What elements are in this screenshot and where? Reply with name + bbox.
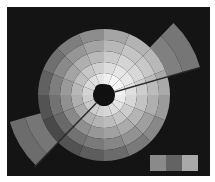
- legend-swatch: [182, 155, 198, 171]
- center-blob: [94, 84, 114, 106]
- legend-swatch: [166, 155, 182, 171]
- legend-swatch: [150, 155, 166, 171]
- sunburst-figure: [0, 0, 215, 182]
